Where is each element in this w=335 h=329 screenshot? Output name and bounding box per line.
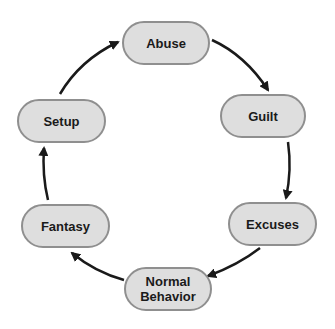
node-guilt-label: Guilt [248, 109, 278, 124]
arrow-setup-to-abuse [60, 42, 118, 94]
arrow-abuse-to-guilt [212, 40, 268, 90]
node-abuse-label: Abuse [146, 36, 186, 51]
arrow-guilt-to-excuses [286, 142, 290, 198]
node-excuses-label: Excuses [246, 217, 299, 232]
node-setup-label: Setup [43, 114, 79, 129]
node-normal-behavior-label: Normal Behavior [138, 274, 198, 304]
node-fantasy: Fantasy [21, 204, 110, 248]
node-fantasy-label: Fantasy [41, 219, 90, 234]
node-excuses: Excuses [228, 202, 317, 246]
node-normal-behavior: Normal Behavior [124, 267, 212, 311]
node-abuse: Abuse [122, 21, 210, 65]
arrow-fantasy-to-setup [44, 148, 49, 200]
node-setup: Setup [17, 99, 106, 143]
node-guilt: Guilt [220, 94, 306, 138]
arrow-normal-to-fantasy [72, 253, 124, 280]
arrow-excuses-to-normal [208, 248, 260, 276]
